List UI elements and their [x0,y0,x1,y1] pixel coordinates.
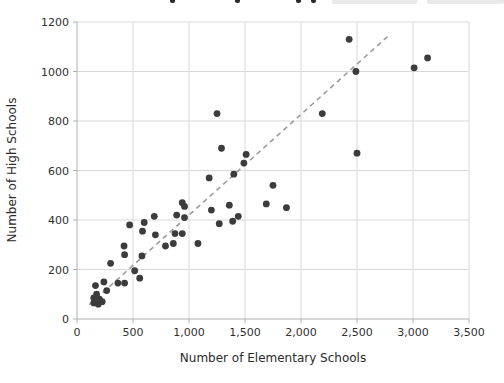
y-tick-label: 200 [48,264,69,277]
data-point [206,175,213,182]
data-point [136,275,143,282]
x-tick-label: 1,500 [229,326,261,339]
data-point [126,222,133,229]
data-point [179,230,186,237]
y-tick-label: 600 [48,165,69,178]
data-point [92,282,99,289]
data-point [230,171,237,178]
data-point [162,243,169,250]
y-tick-label: 800 [48,115,69,128]
x-tick-label: 0 [74,326,81,339]
data-point [263,201,270,208]
data-point [195,240,202,247]
data-point [243,151,250,158]
data-point [181,203,188,210]
gridlines-layer [77,22,469,319]
data-point [170,240,177,247]
chart-image: 05001,0001,5002,0002,5003,0003,500020040… [0,0,504,383]
data-point [131,267,138,274]
data-point [181,214,188,221]
points-layer [90,36,431,308]
data-point [121,251,128,258]
y-tick-label: 1200 [41,16,69,29]
data-point [218,145,225,152]
data-point [173,212,180,219]
data-point [411,64,418,71]
data-point [354,150,361,157]
data-point [151,213,158,220]
y-tick-label: 400 [48,214,69,227]
data-point [270,182,277,189]
data-point [141,219,148,226]
data-point [346,36,353,43]
data-point [216,220,223,227]
x-tick-label: 1,000 [173,326,205,339]
data-point [229,218,236,225]
data-point [93,291,100,298]
data-point [100,278,107,285]
data-point [208,207,215,214]
x-tick-label: 2,000 [285,326,317,339]
data-point [152,231,159,238]
x-tick-label: 3,500 [453,326,485,339]
data-point [214,110,221,117]
data-point [235,213,242,220]
x-tick-label: 2,500 [341,326,373,339]
data-point [172,230,179,237]
y-tick-label: 0 [62,313,69,326]
scatter-chart: 05001,0001,5002,0002,5003,0003,500020040… [0,0,504,383]
data-point [319,110,326,117]
data-point [107,260,114,267]
data-point [352,68,359,75]
data-point [139,252,146,259]
data-point [99,298,106,305]
data-point [121,243,128,250]
data-point [283,204,290,211]
x-axis-title: Number of Elementary Schools [180,351,366,365]
data-point [139,228,146,235]
data-point [226,202,233,209]
data-point [103,287,110,294]
y-tick-label: 1000 [41,66,69,79]
data-point [240,160,247,167]
y-axis-title: Number of High Schools [5,98,19,243]
axes-layer [73,22,469,323]
data-point [424,54,431,61]
data-point [114,280,121,287]
x-tick-label: 500 [123,326,144,339]
x-tick-label: 3,000 [397,326,429,339]
data-point [121,280,128,287]
